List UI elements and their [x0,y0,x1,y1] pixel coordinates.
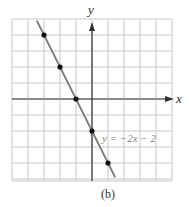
data-point [105,160,110,165]
equation-label: y = −2x − 2 [102,132,156,144]
coordinate-plane [0,0,189,207]
data-point [73,96,78,101]
x-axis-arrow-icon [165,96,174,102]
y-axis-label: y [88,2,94,18]
x-axis-label: x [176,91,182,107]
data-point [41,32,46,37]
y-axis-arrow-icon [89,22,95,31]
axes [12,22,174,181]
data-point [57,64,62,69]
figure-caption: (b) [101,187,115,202]
data-point [89,128,94,133]
